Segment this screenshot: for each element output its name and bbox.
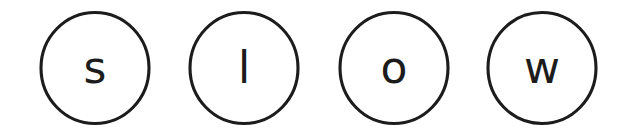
letter-glyph-w: w bbox=[524, 42, 560, 93]
letter-glyph-o: o bbox=[381, 42, 408, 93]
letter-token-s[interactable]: s bbox=[39, 11, 151, 125]
letter-glyph-l: l bbox=[238, 42, 250, 93]
letter-token-w[interactable]: w bbox=[486, 11, 598, 125]
letter-token-l[interactable]: l bbox=[188, 11, 300, 125]
letter-glyph-s: s bbox=[84, 42, 107, 93]
letter-token-o[interactable]: o bbox=[338, 11, 450, 125]
slow-word-canvas: s l o w bbox=[0, 0, 628, 139]
